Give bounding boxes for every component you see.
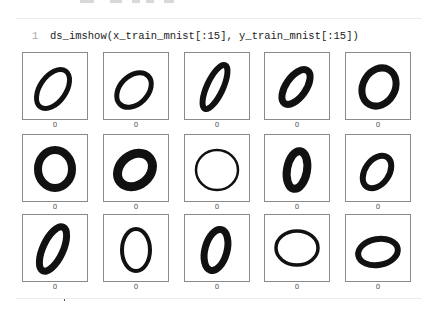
digit-label: 0 [264, 203, 330, 211]
digit-label: 0 [103, 121, 169, 129]
digit-image [345, 52, 411, 120]
digit-image [264, 134, 330, 202]
digit-glyph-icon [346, 215, 410, 281]
digit-image [184, 52, 250, 120]
digit-label: 0 [264, 283, 330, 291]
digit-image [22, 134, 88, 202]
digit-label: 0 [22, 203, 88, 211]
digit-label: 0 [22, 121, 88, 129]
digit-label: 0 [345, 283, 411, 291]
digit-label: 0 [103, 203, 169, 211]
digit-image [103, 52, 169, 120]
digit-image [22, 214, 88, 282]
cursor-mark [64, 299, 65, 301]
digit-glyph-icon [104, 53, 168, 119]
digit-glyph-icon [265, 135, 329, 201]
digit-glyph-icon [346, 53, 410, 119]
digit-label: 0 [184, 121, 250, 129]
digit-image [184, 134, 250, 202]
truncated-previous-output [80, 0, 190, 4]
digit-image [184, 214, 250, 282]
digit-label: 0 [345, 203, 411, 211]
digit-glyph-icon [104, 135, 168, 201]
digit-image [345, 214, 411, 282]
digit-glyph-icon [23, 215, 87, 281]
line-number: 1 [32, 30, 50, 42]
digit-glyph-icon [104, 215, 168, 281]
digit-image [264, 214, 330, 282]
cell-divider-bottom [16, 298, 422, 299]
digit-label: 0 [22, 283, 88, 291]
code-cell-input[interactable]: 1 ds_imshow(x_train_mnist[:15], y_train_… [26, 28, 359, 44]
digit-glyph-icon [185, 135, 249, 201]
digit-image [103, 134, 169, 202]
digit-label: 0 [103, 283, 169, 291]
digit-glyph-icon [346, 135, 410, 201]
code-text[interactable]: ds_imshow(x_train_mnist[:15], y_train_mn… [50, 30, 359, 42]
digit-glyph-icon [265, 53, 329, 119]
digit-image [264, 52, 330, 120]
digit-label: 0 [184, 203, 250, 211]
digit-image [345, 134, 411, 202]
digit-image [103, 214, 169, 282]
digit-label: 0 [264, 121, 330, 129]
digit-glyph-icon [23, 135, 87, 201]
digit-label: 0 [345, 121, 411, 129]
digit-image [22, 52, 88, 120]
digit-glyph-icon [23, 53, 87, 119]
digit-label: 0 [184, 283, 250, 291]
digit-glyph-icon [185, 53, 249, 119]
cell-divider-top [16, 18, 422, 19]
digit-glyph-icon [185, 215, 249, 281]
digit-glyph-icon [265, 215, 329, 281]
